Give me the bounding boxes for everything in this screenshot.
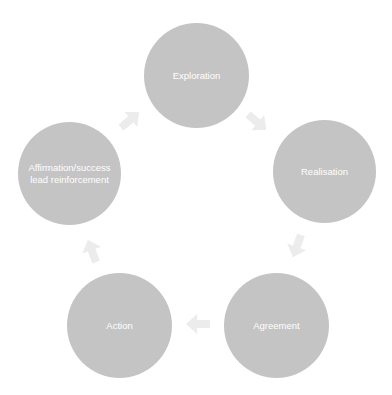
node-realisation: Realisation (273, 120, 376, 223)
node-label-action: Action (106, 320, 132, 332)
node-label-affirmation: Affirmation/success lead reinforcement (28, 162, 110, 186)
node-label-realisation: Realisation (301, 166, 348, 178)
arrow-affirmation-to-exploration-icon (114, 105, 145, 136)
node-agreement: Agreement (224, 273, 329, 378)
arrow-exploration-to-realisation-icon (241, 107, 272, 138)
node-affirmation: Affirmation/success lead reinforcement (18, 122, 121, 225)
arrow-action-to-affirmation-icon (78, 236, 105, 265)
node-action: Action (67, 273, 172, 378)
arrow-agreement-to-action-icon (186, 314, 210, 334)
node-exploration: Exploration (144, 23, 249, 128)
node-label-agreement: Agreement (253, 320, 299, 332)
node-label-exploration: Exploration (173, 70, 221, 82)
arrow-realisation-to-agreement-icon (283, 231, 310, 260)
cycle-diagram: Exploration Realisation Agreement Action… (0, 0, 392, 395)
